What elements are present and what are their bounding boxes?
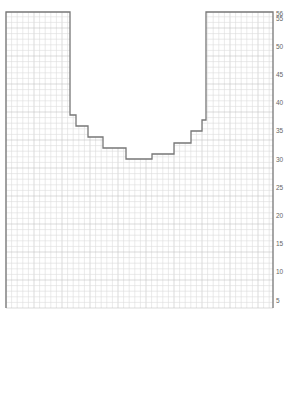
row-label: 35 xyxy=(276,127,284,134)
row-label: 15 xyxy=(276,240,284,247)
knitting-chart: 56555045403530252015105 xyxy=(0,0,289,412)
row-label: 5 xyxy=(276,297,280,304)
row-number-labels: 56555045403530252015105 xyxy=(276,10,284,304)
row-label: 45 xyxy=(276,71,284,78)
row-label: 30 xyxy=(276,156,284,163)
row-label: 25 xyxy=(276,184,284,191)
row-label: 55 xyxy=(276,15,284,22)
row-label: 10 xyxy=(276,268,284,275)
row-label: 20 xyxy=(276,212,284,219)
row-label: 40 xyxy=(276,99,284,106)
row-label: 50 xyxy=(276,43,284,50)
